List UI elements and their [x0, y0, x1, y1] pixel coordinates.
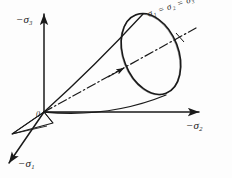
stress-space-figure: −σ₃ −σ₂ −σ₁ 0 σ₁ = σ₂ = σ₃: [0, 0, 232, 178]
cone-generator-upper: [44, 14, 143, 112]
origin-label: 0: [36, 111, 40, 119]
apex-facet-edge: [44, 112, 53, 123]
cone-base-ellipse-shadow: [109, 6, 190, 104]
axis-label-sigma3: −σ₃: [16, 14, 33, 25]
axis-label-sigma3-text: −σ₃: [16, 13, 33, 25]
origin-label-text: 0: [36, 110, 40, 119]
axis-label-sigma2-text: −σ₂: [186, 119, 203, 131]
cone-base-ellipse: [110, 5, 191, 103]
ellipse-axis-tick: [176, 33, 184, 42]
cone-generator-lower: [44, 95, 166, 113]
axis-sigma1-line: [9, 112, 44, 163]
figure-drawing: [0, 0, 232, 178]
axis-label-sigma1: −σ₁: [18, 158, 35, 169]
hydrostatic-axis-arrow: [108, 68, 124, 77]
axis-label-sigma2: −σ₂: [186, 120, 203, 131]
axis-label-sigma1-text: −σ₁: [18, 157, 35, 169]
